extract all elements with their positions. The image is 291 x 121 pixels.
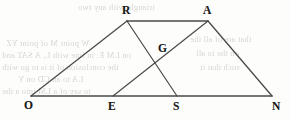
- vertex-label-A: A: [203, 5, 211, 17]
- segment-OR: [31, 21, 127, 96]
- segment-EA: [113, 21, 208, 96]
- segment-RS: [127, 21, 177, 96]
- geometry-figure-container: triangle with any twoW point M of point …: [0, 0, 291, 121]
- vertex-label-N: N: [272, 101, 280, 113]
- vertex-label-S: S: [173, 101, 179, 113]
- segment-AN: [208, 21, 272, 96]
- vertex-label-R: R: [122, 5, 130, 17]
- segments-group: [31, 21, 272, 96]
- vertex-label-O: O: [24, 100, 33, 112]
- vertex-label-G: G: [158, 43, 167, 55]
- geometry-diagram: [0, 0, 291, 121]
- vertex-label-E: E: [108, 101, 116, 113]
